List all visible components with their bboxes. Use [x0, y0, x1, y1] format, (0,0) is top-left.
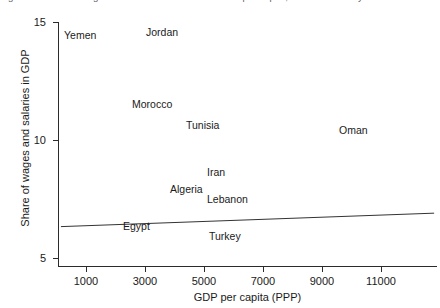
y-tick-mark-15	[53, 22, 58, 23]
y-axis-title: Share of wages and salaries in GDP	[19, 28, 31, 248]
data-point-label-egypt: Egypt	[123, 221, 150, 232]
chart-figure: Figure 3. Share of wages and salaries in…	[0, 0, 440, 308]
x-tick-label-5000: 5000	[181, 276, 227, 287]
y-tick-label-5: 5	[24, 253, 46, 264]
data-point-label-iran: Iran	[207, 167, 225, 178]
y-axis-line	[58, 22, 59, 267]
data-point-label-morocco: Morocco	[132, 99, 172, 110]
data-point-label-tunisia: Tunisia	[186, 120, 219, 131]
x-tick-mark-1000	[86, 267, 87, 272]
data-point-label-turkey: Turkey	[209, 231, 241, 242]
x-tick-label-9000: 9000	[299, 276, 345, 287]
data-point-label-yemen: Yemen	[64, 30, 96, 41]
x-tick-mark-3000	[145, 267, 146, 272]
clipped-figure-title: Figure 3. Share of wages and salaries in…	[0, 0, 440, 5]
x-tick-label-11000: 11000	[358, 276, 404, 287]
y-tick-mark-10	[53, 140, 58, 141]
y-tick-mark-5	[53, 258, 58, 259]
x-axis-title: GDP per capita (PPP)	[58, 291, 437, 303]
trendline	[0, 0, 440, 308]
x-tick-label-7000: 7000	[240, 276, 286, 287]
x-tick-label-1000: 1000	[63, 276, 109, 287]
y-tick-label-15: 15	[24, 17, 46, 28]
x-tick-mark-11000	[381, 267, 382, 272]
x-tick-mark-5000	[204, 267, 205, 272]
data-point-label-jordan: Jordan	[146, 27, 178, 38]
x-tick-label-3000: 3000	[122, 276, 168, 287]
data-point-label-oman: Oman	[339, 125, 368, 136]
x-tick-mark-9000	[322, 267, 323, 272]
data-point-label-algeria: Algeria	[170, 184, 203, 195]
data-point-label-lebanon: Lebanon	[207, 194, 248, 205]
x-tick-mark-7000	[263, 267, 264, 272]
